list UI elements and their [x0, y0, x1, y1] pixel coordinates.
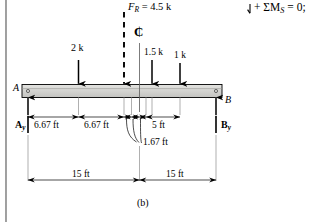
dimension-label-6p67-right: 6.67 ft [84, 121, 109, 131]
reaction-label-ay: Ay [15, 120, 25, 132]
dimension-label-1p67ft: 1.67 ft [143, 138, 168, 148]
beam-element [22, 85, 222, 98]
dimension-label-6p67-left: 6.67 ft [34, 121, 59, 131]
support-label-b: B [225, 95, 231, 105]
diagram-graphics [0, 0, 326, 222]
reaction-by-subscript: y [228, 124, 231, 132]
resultant-value: = 4.5 k [139, 1, 171, 12]
centerline-symbol: ₵ [134, 25, 143, 38]
dimension-extension-lines-upper [28, 97, 216, 118]
load-label-1p5k: 1.5 k [144, 48, 163, 58]
figure-caption: (b) [137, 198, 149, 208]
beam-free-body-diagram: + ΣMS = 0; FR = 4.5 k ₵ 2 k 1.5 k 1 k A … [0, 0, 326, 222]
moment-equation-tail: = 0; [284, 1, 305, 13]
load-label-2k: 2 k [71, 43, 84, 53]
moment-equation-text: + ΣM [254, 1, 280, 13]
dimension-label-15ft-left: 15 ft [72, 170, 90, 180]
reaction-label-by: By [221, 120, 231, 132]
dimension-leader-curves [127, 119, 142, 143]
support-label-a: A [13, 83, 19, 93]
reaction-by-symbol: B [221, 119, 228, 130]
dimension-label-5ft: 5 ft [152, 121, 165, 131]
reaction-ay-subscript: y [22, 124, 25, 132]
load-label-1k: 1 k [174, 51, 186, 61]
resultant-force-label: FR = 4.5 k [128, 2, 171, 13]
moment-equation: + ΣMS = 0; [168, 2, 306, 15]
dimension-extension-lines-lower [28, 135, 216, 181]
dimension-label-15ft-right: 15 ft [166, 170, 184, 180]
